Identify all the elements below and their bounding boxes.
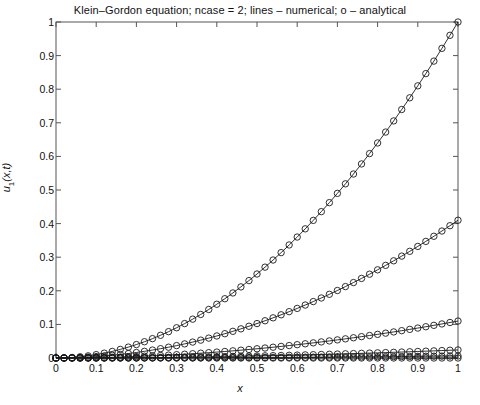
x-tick-label: 1: [438, 362, 478, 374]
numerical-line: [56, 220, 458, 358]
y-tick-label: 1: [14, 16, 54, 28]
x-tick-label: 0.8: [358, 362, 398, 374]
x-tick-label: 0.1: [76, 362, 116, 374]
y-tick-label: 0.3: [14, 251, 54, 263]
y-tick-label: 0.7: [14, 117, 54, 129]
y-axis-tick-labels: 00.10.20.30.40.50.60.70.80.91: [8, 0, 54, 405]
x-tick-label: 0.4: [197, 362, 237, 374]
plot-border: [56, 22, 458, 358]
numerical-line: [56, 22, 458, 358]
y-tick-label: 0.9: [14, 50, 54, 62]
y-tick-label: 0.4: [14, 218, 54, 230]
x-tick-label: 0.9: [398, 362, 438, 374]
y-tick-label: 0.2: [14, 285, 54, 297]
plot-area: [0, 0, 480, 405]
x-tick-label: 0.2: [116, 362, 156, 374]
axis-ticks: [56, 22, 458, 358]
data-curves: [56, 22, 458, 358]
x-tick-label: 0.3: [157, 362, 197, 374]
figure-panel: Klein–Gordon equation; ncase = 2; lines …: [0, 0, 480, 405]
y-tick-label: 0.1: [14, 318, 54, 330]
axes-frame: [56, 22, 458, 358]
y-tick-label: 0.6: [14, 150, 54, 162]
data-markers: [53, 19, 461, 361]
x-tick-label: 0.5: [237, 362, 277, 374]
x-axis-label: x: [0, 382, 480, 394]
x-axis-tick-labels: 00.10.20.30.40.50.60.70.80.91: [0, 362, 480, 382]
x-tick-label: 0.7: [317, 362, 357, 374]
y-tick-label: 0.5: [14, 184, 54, 196]
x-tick-label: 0.6: [277, 362, 317, 374]
chart-title: Klein–Gordon equation; ncase = 2; lines …: [0, 4, 480, 16]
x-tick-label: 0: [36, 362, 76, 374]
y-tick-label: 0.8: [14, 83, 54, 95]
